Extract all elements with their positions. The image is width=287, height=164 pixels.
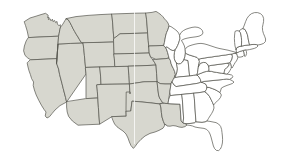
- state-wy[interactable]: Wyoming: [83, 42, 115, 68]
- state-co[interactable]: Colorado: [100, 66, 129, 84]
- state-or[interactable]: Oregon: [24, 36, 59, 60]
- us-map-svg: WashingtonOregonCaliforniaNevadaIdahoMon…: [0, 0, 287, 164]
- state-ks[interactable]: Kansas: [128, 65, 157, 84]
- state-al[interactable]: Alabama: [182, 93, 196, 123]
- us-states-map-figure: WashingtonOregonCaliforniaNevadaIdahoMon…: [0, 0, 287, 164]
- state-sd[interactable]: South Dakota: [114, 33, 150, 54]
